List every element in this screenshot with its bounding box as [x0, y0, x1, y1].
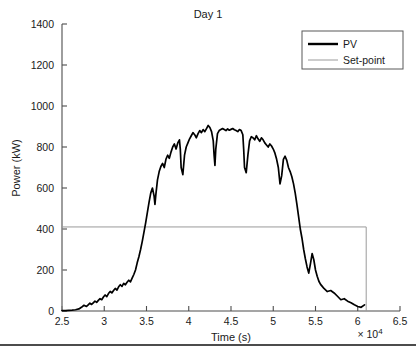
x-tick-label: 4.5: [224, 315, 239, 327]
x-tick-label: 4: [186, 315, 192, 327]
legend-label-setpoint: Set-point: [343, 54, 385, 66]
y-tick-label: 800: [36, 141, 54, 153]
power-vs-time-chart: Day 1 0200400600800100012001400 2.533.54…: [0, 0, 416, 351]
x-tick-label: 6.5: [393, 315, 408, 327]
y-axis-label: Power (kW): [10, 139, 22, 196]
page-title: Day 1: [194, 8, 223, 20]
y-tick-label: 1000: [31, 100, 55, 112]
y-tick-label: 400: [36, 223, 54, 235]
legend-label-pv: PV: [343, 38, 357, 50]
figure-container: Day 1 0200400600800100012001400 2.533.54…: [0, 0, 416, 351]
x-tick-label: 2.5: [55, 315, 70, 327]
y-tick-label: 200: [36, 264, 54, 276]
x-tick-label: 5: [270, 315, 276, 327]
y-tick-label: 0: [48, 305, 54, 317]
x-tick-label: 6: [355, 315, 361, 327]
x-tick-label: 3: [101, 315, 107, 327]
y-tick-label: 600: [36, 182, 54, 194]
y-tick-label: 1200: [31, 59, 55, 71]
chart-legend[interactable]: PV Set-point: [302, 31, 403, 69]
y-tick-label: 1400: [31, 18, 55, 30]
x-tick-label: 3.5: [139, 315, 154, 327]
x-tick-label: 5.5: [308, 315, 323, 327]
x-axis-label: Time (s): [211, 331, 251, 343]
